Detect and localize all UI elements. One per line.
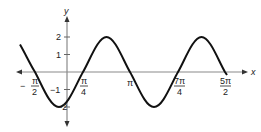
svg-text:7π: 7π [174,76,185,86]
y-tick-2: 2 [56,32,61,42]
sine-graph: y x 2 1 −1 −2 − π 2 π 4 π 7π 4 5π 2 [0,0,261,132]
y-tick-neg2: −2 [57,102,67,112]
x-axis-right-arrow-icon [242,70,248,75]
svg-text:4: 4 [177,87,182,97]
y-axis-label: y [63,6,69,16]
svg-text:π: π [32,76,38,86]
y-tick-1: 1 [56,50,61,60]
x-tick-quarter-pi: π 4 [80,76,88,97]
svg-text:π: π [127,78,133,88]
svg-text:2: 2 [32,87,37,97]
svg-text:2: 2 [223,87,228,97]
svg-text:π: π [81,76,87,86]
x-axis-left-arrow-icon [16,70,22,75]
svg-text:4: 4 [81,87,86,97]
svg-text:5π: 5π [220,76,231,86]
x-tick-pi: π [127,78,133,88]
x-tick-seven-quarter-pi: 7π 4 [174,76,185,97]
x-tick-five-half-pi: 5π 2 [220,76,231,97]
x-axis-label: x [250,67,256,77]
svg-text:−: − [20,81,25,91]
y-tick-neg1: −1 [50,85,60,95]
x-tick-neg-half-pi: − π 2 [20,76,39,97]
y-axis-down-arrow-icon [65,121,70,127]
y-axis-up-arrow-icon [65,16,70,22]
